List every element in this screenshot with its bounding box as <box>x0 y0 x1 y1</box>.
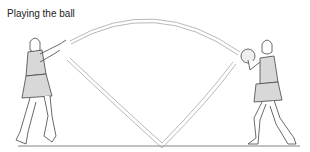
bounce-pass-path <box>67 58 236 148</box>
passer-figure <box>16 38 66 144</box>
receiver-figure <box>241 40 296 144</box>
lob-pass-arc <box>70 19 240 55</box>
illustration <box>0 0 310 152</box>
